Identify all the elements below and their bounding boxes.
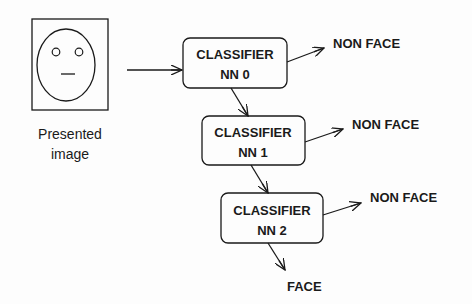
diagram-svg: Presented image CLASSIFIER NN 0 NON FACE… xyxy=(0,0,472,304)
reject-arrow-2 xyxy=(323,203,361,215)
presented-image xyxy=(32,19,108,110)
accept-arrow xyxy=(268,243,285,270)
right-eye xyxy=(75,48,83,56)
pass-arrow-1 xyxy=(251,165,268,193)
pass-arrow-0 xyxy=(231,88,248,116)
face-sketch-icon xyxy=(37,29,95,101)
reject-arrow-1 xyxy=(305,129,343,142)
cascade-classifier-diagram: Presented image CLASSIFIER NN 0 NON FACE… xyxy=(0,0,472,304)
left-eye xyxy=(52,48,60,56)
classifier-id: NN 0 xyxy=(220,67,250,82)
classifier-id: NN 1 xyxy=(238,145,268,160)
classifier-id: NN 2 xyxy=(257,223,287,238)
face-outline xyxy=(37,29,95,101)
image-caption-line1: Presented xyxy=(38,126,102,142)
accept-label: FACE xyxy=(287,279,322,294)
classifier-title: CLASSIFIER xyxy=(214,125,292,140)
classifier-node-1: CLASSIFIER NN 1 xyxy=(202,116,305,165)
classifier-node-0: CLASSIFIER NN 0 xyxy=(183,38,287,88)
image-frame xyxy=(32,19,108,110)
classifier-title: CLASSIFIER xyxy=(196,47,274,62)
reject-label-2: NON FACE xyxy=(370,190,438,205)
classifier-title: CLASSIFIER xyxy=(233,203,311,218)
reject-label-1: NON FACE xyxy=(352,117,420,132)
image-caption-line2: image xyxy=(51,146,89,162)
reject-label-0: NON FACE xyxy=(333,36,401,51)
reject-arrow-0 xyxy=(287,48,324,62)
classifier-node-2: CLASSIFIER NN 2 xyxy=(221,193,323,243)
